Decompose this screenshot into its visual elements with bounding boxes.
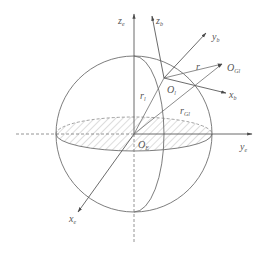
- coordinate-frame-diagram: ze zb yb r OGl Ol xb rl rGl OE ye xe: [0, 0, 266, 254]
- body-axes: [152, 16, 226, 93]
- label-o-gl: OGl: [227, 62, 241, 74]
- earth-axes: [16, 14, 252, 242]
- label-r-gl: rGl: [180, 105, 190, 117]
- label-r-l: rl: [140, 90, 146, 102]
- label-y-b: yb: [211, 31, 219, 43]
- label-z-b: zb: [155, 15, 163, 27]
- label-x-e: xe: [68, 213, 76, 225]
- label-x-b: xb: [228, 89, 236, 101]
- label-y-e: ye: [239, 141, 247, 153]
- label-r: r: [196, 61, 200, 72]
- label-z-e: ze: [117, 15, 125, 27]
- label-o-l: Ol: [167, 84, 176, 96]
